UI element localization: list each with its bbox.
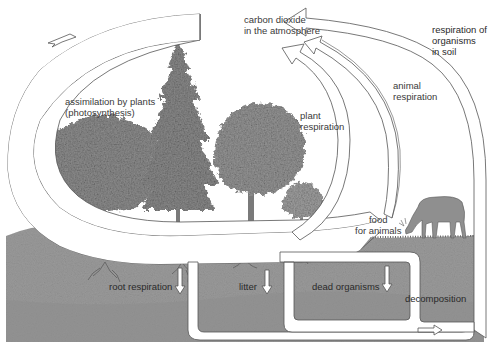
label-soil-respiration: respiration of organisms in soil <box>432 24 487 57</box>
label-dead-organisms: dead organisms <box>312 281 380 292</box>
label-plant-respiration: plant respiration <box>300 110 344 132</box>
label-co2-atmosphere: carbon dioxide in the atmosphere <box>244 14 320 36</box>
label-root-respiration: root respiration <box>109 281 172 292</box>
label-animal-respiration: animal respiration <box>393 80 437 102</box>
carbon-cycle-diagram: carbon dioxide in the atmosphere assimil… <box>0 0 492 354</box>
flow-direction-arrow-left <box>48 34 76 47</box>
label-food-for-animals: food for animals <box>355 214 401 236</box>
label-litter: litter <box>239 281 257 292</box>
label-assimilation: assimilation by plants (photosynthesis) <box>65 96 155 118</box>
label-decomposition: decomposition <box>405 293 466 304</box>
deer-illustration <box>399 197 466 238</box>
